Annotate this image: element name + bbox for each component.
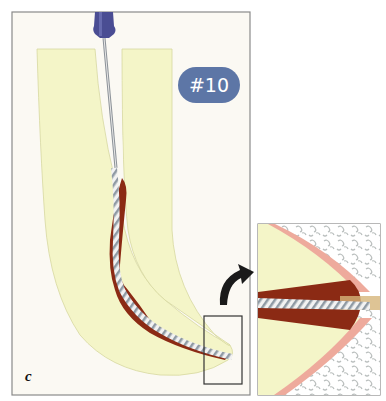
main-panel: #10 c [12,12,254,395]
file-handle [93,12,115,38]
file-size-label: #10 [189,74,229,96]
inset-panel [258,224,380,395]
figure-canvas: #10 c [0,0,386,401]
panel-label: c [25,368,32,384]
file-size-badge: #10 [178,67,240,103]
